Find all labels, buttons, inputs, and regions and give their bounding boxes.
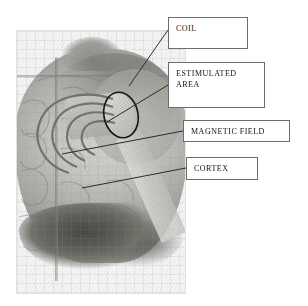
callout-box-cortex: CORTEX — [186, 157, 258, 180]
brain-photo-frame — [16, 30, 186, 294]
callout-box-coil: COIL — [168, 17, 248, 49]
figure-root: COIL ESTIMULATED AREA MAGNETIC FIELD COR… — [0, 0, 308, 306]
callout-label-magnetic-field-line-1: MAGNETIC FIELD — [191, 126, 265, 137]
callout-label-coil-line-1: COIL — [176, 23, 240, 34]
callout-label-estimulated-area-line-1: ESTIMULATED — [176, 68, 257, 79]
photo-grain — [17, 31, 185, 293]
callout-box-estimulated-area: ESTIMULATED AREA — [168, 62, 265, 108]
brain-photo — [17, 31, 185, 293]
callout-box-magnetic-field: MAGNETIC FIELD — [183, 120, 290, 142]
callout-label-cortex-line-1: CORTEX — [194, 163, 229, 174]
callout-label-estimulated-area-line-2: AREA — [176, 79, 257, 90]
